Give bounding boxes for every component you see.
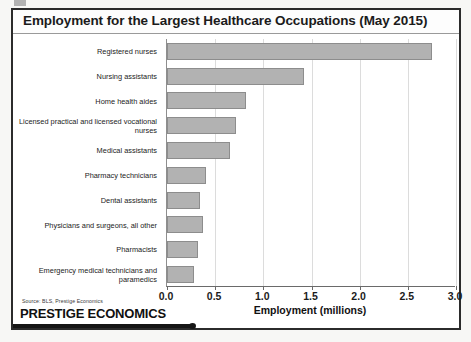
bar [167,117,236,134]
plot-area [166,39,455,287]
bar [167,241,198,258]
brand-wordmark: PRESTIGE ECONOMICS [20,306,166,321]
bar [167,216,203,233]
bar-row [167,262,455,287]
bar-row [167,113,455,138]
category-label: Emergency medical technicians and parame… [13,266,163,284]
brand-rule [13,324,193,328]
category-label: Physicians and surgeons, all other [13,221,163,230]
x-axis-title: Employment (millions) [166,304,454,316]
x-tick-label: 0.5 [194,290,234,302]
bar-chart: Employment (millions) 0.00.51.01.52.02.5… [13,34,463,300]
scan-artifact [14,0,26,6]
bar-row [167,188,455,213]
bar-row [167,89,455,114]
bar-row [167,64,455,89]
bar-row [167,39,455,64]
x-tick-label: 1.5 [291,290,331,302]
category-label: Pharmacists [13,245,163,254]
x-tick-label: 2.0 [339,290,379,302]
category-label: Registered nurses [13,47,163,56]
category-label: Medical assistants [13,146,163,155]
bar [167,68,304,85]
bar-row [167,213,455,238]
brand-rule-dot [189,323,196,329]
bar [167,192,200,209]
bar [167,266,194,283]
x-tick-label: 0.0 [146,290,186,302]
page-title: Employment for the Largest Healthcare Oc… [13,10,459,34]
bar-row [167,163,455,188]
x-tick-label: 3.0 [435,290,471,302]
slide-frame: Employment for the Largest Healthcare Oc… [11,8,461,330]
bar [167,142,230,159]
x-tick-label: 1.0 [242,290,282,302]
bar [167,43,432,60]
bar [167,167,206,184]
x-gridline [456,39,457,286]
bar-row [167,237,455,262]
category-label: Home health aides [13,97,163,106]
category-label: Licensed practical and licensed vocation… [13,117,163,135]
x-tick-label: 2.5 [387,290,427,302]
category-label: Pharmacy technicians [13,171,163,180]
bar [167,92,246,109]
category-label: Dental assistants [13,196,163,205]
category-label: Nursing assistants [13,72,163,81]
source-note: Source: BLS, Prestige Economics [22,298,103,304]
bar-row [167,138,455,163]
